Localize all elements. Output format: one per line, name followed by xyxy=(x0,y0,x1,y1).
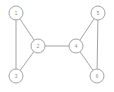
graph-edge xyxy=(20,52,34,71)
graph-node-label: 6 xyxy=(96,74,99,79)
graph-node-label: 1 xyxy=(15,11,18,16)
graph-node-label: 5 xyxy=(97,11,100,16)
graph-edge xyxy=(20,19,34,40)
graph-canvas: 123456 xyxy=(0,0,114,92)
graph-node[interactable]: 6 xyxy=(90,69,104,83)
graph-edge xyxy=(80,52,93,71)
graph-node-label: 3 xyxy=(15,74,18,79)
node-layer: 123456 xyxy=(9,6,105,83)
edge-layer xyxy=(16,19,98,71)
graph-node-label: 4 xyxy=(75,44,78,49)
graph-node[interactable]: 3 xyxy=(9,69,23,83)
graph-diagram-figure: 123456 xyxy=(0,0,114,92)
graph-node[interactable]: 5 xyxy=(91,6,105,20)
graph-node[interactable]: 4 xyxy=(69,39,83,53)
graph-edge xyxy=(97,20,98,69)
graph-node-label: 2 xyxy=(37,44,40,49)
graph-edge xyxy=(80,19,94,40)
graph-node[interactable]: 2 xyxy=(31,39,45,53)
graph-node[interactable]: 1 xyxy=(9,6,23,20)
